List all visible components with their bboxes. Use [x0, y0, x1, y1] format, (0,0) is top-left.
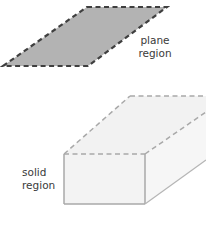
- solid-region-label: solid region: [22, 166, 54, 192]
- plane-label-line1: plane: [138, 34, 172, 47]
- plane-label-line2: region: [138, 47, 172, 60]
- solid-label-line1: solid: [22, 166, 54, 179]
- solid-label-line2: region: [22, 179, 54, 192]
- solid-region-shape: [64, 96, 206, 204]
- plane-region-label: plane region: [138, 34, 172, 60]
